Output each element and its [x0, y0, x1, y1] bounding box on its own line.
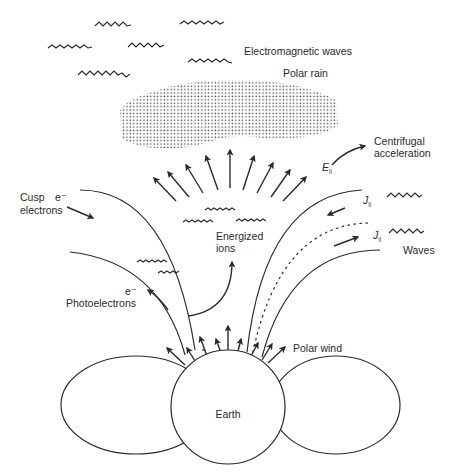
centrifugal-label-2: acceleration: [374, 147, 431, 159]
field-line-left-outer: [80, 190, 195, 350]
em-waves-label: Electromagnetic waves: [244, 45, 352, 57]
em-waves-group: [48, 21, 232, 77]
wave-icon: [389, 229, 424, 233]
up-arrow-icon: [283, 177, 306, 201]
photoelectrons-label: Photoelectrons: [66, 297, 136, 309]
j-parallel-label-2: J||: [372, 229, 382, 242]
energized-ions-arrow: [188, 262, 232, 316]
j-parallel-label-1: J||: [362, 194, 372, 207]
field-line-right-inner: [262, 250, 380, 357]
up-arrow-icon: [257, 163, 273, 193]
up-arrow-icon: [168, 172, 189, 197]
polar-wind-label: Polar wind: [293, 342, 342, 354]
j-parallel-in-arrow: [328, 208, 345, 215]
up-arrow-icon: [243, 156, 254, 190]
energized-label-1: Energized: [216, 230, 263, 242]
up-arrow-icon: [186, 165, 203, 193]
em-wave-icon: [188, 59, 232, 63]
centrifugal-arrow: [332, 146, 365, 165]
polar-rain-label: Polar rain: [283, 67, 328, 79]
waves-label: Waves: [403, 244, 435, 256]
polar-wind-arrow-icon: [187, 348, 195, 361]
up-arrow-icon: [271, 170, 290, 197]
earth-label: Earth: [215, 408, 240, 420]
polar-rain-region: [120, 80, 338, 148]
em-wave-icon: [180, 21, 224, 24]
em-wave-icon: [48, 45, 92, 48]
em-wave-icon: [128, 43, 164, 47]
polar-wind-diagram: Electromagnetic waves Polar rain Centrif…: [0, 0, 451, 476]
cusp-arrow: [67, 207, 93, 218]
e-parallel-label: E||: [322, 161, 333, 174]
photo-e-label: e⁻: [125, 285, 137, 297]
j-parallel-out-arrow: [334, 237, 358, 246]
cusp-label-1: Cusp: [20, 191, 45, 203]
wave-icon: [205, 208, 235, 210]
polar-wind-arrow-icon: [200, 337, 207, 356]
earth: [171, 350, 285, 464]
up-arrow-icon: [154, 178, 176, 201]
polar-wind-arrow-icon: [268, 347, 285, 363]
wave-icon: [183, 220, 213, 222]
polar-wind-arrow-icon: [238, 339, 241, 351]
wave-icon: [387, 193, 422, 197]
wave-icon: [137, 260, 167, 262]
up-arrow-icon: [206, 156, 218, 190]
em-wave-icon: [95, 22, 131, 26]
wave-icon: [236, 219, 266, 221]
energized-label-2: ions: [216, 242, 235, 254]
accel-arrows-group: [154, 150, 306, 201]
cusp-e-label: e⁻: [55, 191, 67, 203]
em-wave-icon: [78, 71, 130, 77]
cusp-label-2: electrons: [20, 204, 63, 216]
right-lobe: [272, 356, 400, 454]
field-line-right-outer: [247, 190, 362, 352]
centrifugal-label-1: Centrifugal: [374, 135, 425, 147]
